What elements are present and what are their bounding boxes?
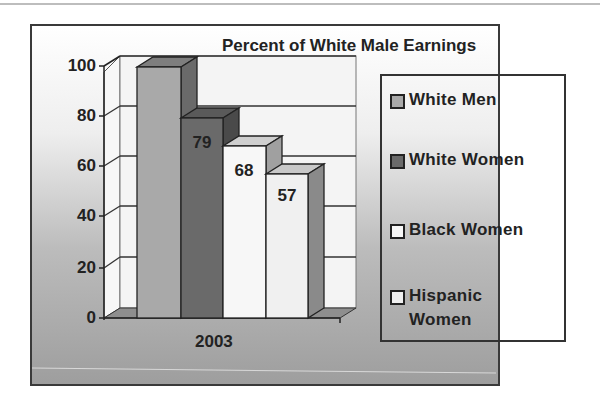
swatch-icon: [390, 224, 405, 239]
legend: White Men White Women Black Women Hispan…: [380, 74, 566, 342]
swatch-icon: [390, 290, 405, 305]
data-label-white-women: 79: [182, 133, 222, 153]
legend-item-black-women: Black Women: [390, 220, 523, 240]
y-tick-label: 0: [56, 308, 96, 328]
swatch-icon: [390, 94, 405, 109]
swatch-icon: [390, 154, 405, 169]
data-label-black-women: 68: [224, 161, 264, 181]
legend-label: White Men: [409, 90, 497, 110]
legend-label: Black Women: [409, 220, 523, 240]
legend-item-white-women: White Women: [390, 150, 524, 170]
y-tick-label: 60: [56, 156, 96, 176]
legend-label: White Women: [409, 150, 524, 170]
legend-item-hispanic-women: Hispanic Women: [390, 284, 500, 332]
y-tick-label: 100: [56, 56, 96, 76]
x-category-label: 2003: [195, 332, 233, 352]
y-tick-label: 20: [56, 258, 96, 278]
legend-label: Hispanic Women: [409, 284, 500, 332]
y-tick-label: 80: [56, 106, 96, 126]
legend-item-white-men: White Men: [390, 90, 497, 110]
y-tick-label: 40: [56, 206, 96, 226]
side-wall: [104, 56, 120, 318]
data-label-hispanic-women: 57: [267, 186, 307, 206]
